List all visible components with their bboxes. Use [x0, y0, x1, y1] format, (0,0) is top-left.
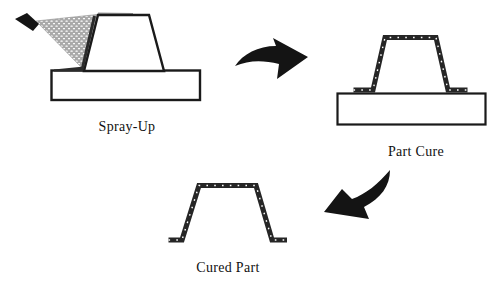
curved-arrow-right-icon [235, 38, 308, 79]
process-diagram: Spray-Up Part Cure Cured Part [0, 0, 502, 287]
mold-trapezoid [84, 15, 164, 71]
laminate-band [354, 38, 468, 91]
stage-label-spray-up: Spray-Up [57, 120, 197, 134]
mold-base-plate [52, 71, 201, 101]
cured-part-figure [169, 186, 288, 241]
cure-base-plate [338, 94, 486, 125]
part-cure-figure [338, 38, 486, 125]
cured-part-shell [169, 186, 288, 241]
spray-gun-nozzle-icon [15, 13, 39, 31]
stage-label-cured-part: Cured Part [158, 261, 298, 275]
sprayed-layer-on-base [54, 67, 84, 72]
curved-arrow-down-left-icon [324, 170, 390, 219]
stage-label-part-cure: Part Cure [346, 145, 486, 159]
spray-up-figure [15, 13, 200, 100]
laminate-specks [354, 38, 468, 91]
